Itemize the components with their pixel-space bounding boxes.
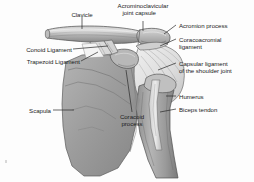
anatomy-figure: Clavicle Acrominoclavicular joint capsul… bbox=[0, 0, 254, 182]
label-clavicle: Clavicle bbox=[54, 11, 110, 18]
label-coracoid-line2: process bbox=[110, 120, 154, 127]
image-artifact-speck bbox=[5, 160, 7, 163]
label-biceps-tendon: Biceps tendon bbox=[179, 106, 217, 113]
label-capsular-ligament-line2: of the shoulder joint bbox=[179, 67, 232, 74]
label-scapula: Scapula bbox=[2, 107, 51, 114]
label-conoid-ligament: Conoid Ligament bbox=[2, 46, 72, 53]
label-acromion-process: Acromion process bbox=[179, 22, 227, 29]
label-trapezoid-ligament: Trapezoid Ligament bbox=[2, 58, 80, 65]
label-ac-joint-capsule-line2: joint capsule bbox=[105, 9, 156, 16]
label-coracoacromial-line2: ligament bbox=[179, 43, 202, 50]
label-humerus: Humerus bbox=[179, 93, 204, 100]
